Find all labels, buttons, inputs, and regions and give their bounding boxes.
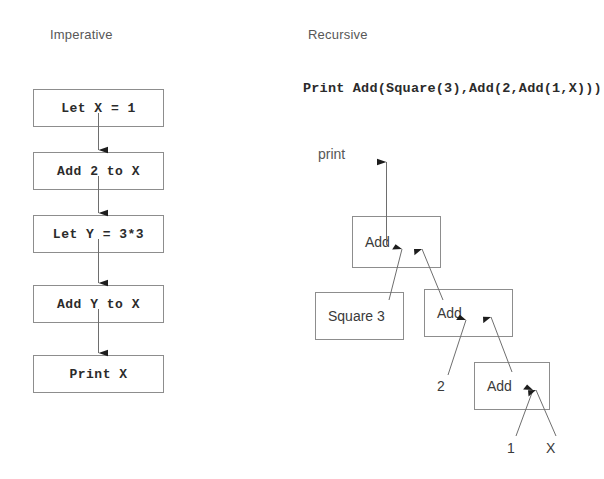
print-output-label: print <box>318 146 345 162</box>
tree-node-label-add-low: Add <box>475 378 512 394</box>
recursive-expression: Print Add(Square(3),Add(2,Add(1,X))) <box>303 81 602 96</box>
flow-step-label-2: Add 2 to X <box>57 164 140 179</box>
flow-step-box-3: Let Y = 3*3 <box>33 215 164 253</box>
diagram-canvas: Imperative Recursive Let X = 1 Add 2 to … <box>0 0 604 479</box>
flow-step-box-5: Print X <box>33 355 164 393</box>
tree-leaf-two: 2 <box>437 378 445 394</box>
tree-node-label-square3: Square 3 <box>316 308 385 324</box>
flow-step-box-1: Let X = 1 <box>33 89 164 127</box>
flow-step-label-3: Let Y = 3*3 <box>53 227 144 242</box>
flow-step-label-4: Add Y to X <box>57 297 140 312</box>
tree-node-add-mid: Add <box>424 289 513 337</box>
tree-leaf-x: X <box>546 440 555 456</box>
tree-node-label-root-add: Add <box>353 234 390 250</box>
tree-node-root-add: Add <box>352 216 441 268</box>
flow-step-box-2: Add 2 to X <box>33 152 164 190</box>
tree-node-label-add-mid: Add <box>425 305 462 321</box>
tree-leaf-one: 1 <box>507 440 515 456</box>
flow-step-label-1: Let X = 1 <box>61 101 136 116</box>
column-header-recursive: Recursive <box>308 27 368 42</box>
flow-step-label-5: Print X <box>69 367 127 382</box>
tree-node-square3: Square 3 <box>315 292 404 340</box>
flow-step-box-4: Add Y to X <box>33 285 164 323</box>
column-header-imperative: Imperative <box>50 27 113 42</box>
tree-node-add-low: Add <box>474 362 550 410</box>
